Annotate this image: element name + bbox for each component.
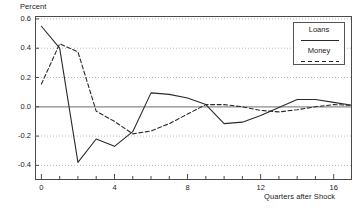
x-tick-label: 4 <box>104 183 124 192</box>
legend-label-loans: Loans <box>294 25 344 34</box>
x-tick-label: 0 <box>31 183 51 192</box>
y-tick-label: -0.4 <box>7 160 31 169</box>
y-axis-label: Percent <box>20 2 47 11</box>
x-tick-label: 12 <box>251 183 271 192</box>
x-axis-label: Quarters after Shock <box>264 192 335 201</box>
y-tick-label: -0.2 <box>7 131 31 140</box>
y-tick-label: 0.2 <box>7 73 31 82</box>
legend-label-money: Money <box>294 46 344 55</box>
x-tick-label: 8 <box>178 183 198 192</box>
y-tick-label: 0.6 <box>7 14 31 23</box>
y-tick-label: 0.4 <box>7 43 31 52</box>
impulse-response-chart: Percent -0.4-0.20.00.20.40.6 0481216 Qua… <box>0 0 363 210</box>
x-tick-label: 16 <box>324 183 344 192</box>
legend-item-money: Money <box>294 44 344 65</box>
legend-swatch-money-dashed-line <box>301 61 339 62</box>
legend-swatch-loans-solid-line <box>301 40 339 41</box>
y-tick-label: 0.0 <box>7 102 31 111</box>
legend-item-loans: Loans <box>294 23 344 44</box>
chart-legend: Loans Money <box>293 22 345 65</box>
